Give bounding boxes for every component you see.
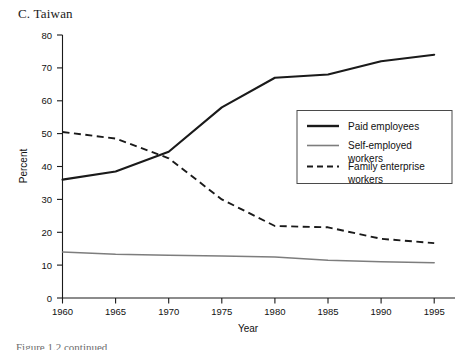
x-tick-label-1970: 1970 bbox=[158, 306, 179, 317]
y-tick-label-50: 50 bbox=[41, 128, 52, 139]
y-tick-label-10: 10 bbox=[41, 260, 52, 271]
y-tick-label-20: 20 bbox=[41, 227, 52, 238]
legend-label-family-enterprise-workers-line2: workers bbox=[347, 174, 383, 185]
x-tick-label-1980: 1980 bbox=[264, 306, 285, 317]
x-axis-title: Year bbox=[238, 323, 259, 334]
x-tick-label-1985: 1985 bbox=[317, 306, 338, 317]
legend-label-self-employed-workers-line1: Self-employed bbox=[348, 140, 412, 151]
legend-label-family-enterprise-workers-line1: Family enterprise bbox=[348, 161, 425, 172]
x-tick-label-1960: 1960 bbox=[52, 306, 73, 317]
x-tick-label-1990: 1990 bbox=[371, 306, 392, 317]
y-axis-title: Percent bbox=[18, 149, 29, 184]
x-tick-label-1995: 1995 bbox=[424, 306, 445, 317]
figure-panel: C. Taiwan 0 10 20 30 40 50 60 70 80 Perc… bbox=[0, 0, 473, 350]
y-tick-label-80: 80 bbox=[41, 30, 52, 41]
y-tick-label-40: 40 bbox=[41, 161, 52, 172]
y-axis-ticks bbox=[57, 35, 63, 298]
legend-label-paid-employees: Paid employees bbox=[348, 121, 419, 132]
x-tick-label-1965: 1965 bbox=[105, 306, 126, 317]
line-chart: 0 10 20 30 40 50 60 70 80 Percent 1960 1… bbox=[0, 0, 473, 350]
x-axis-ticks bbox=[63, 298, 435, 304]
y-tick-label-30: 30 bbox=[41, 194, 52, 205]
chart-legend: Paid employees Self-employed workers Fam… bbox=[297, 111, 452, 185]
series-line-self-employed-workers bbox=[63, 252, 435, 263]
y-tick-label-0: 0 bbox=[47, 293, 52, 304]
y-tick-label-60: 60 bbox=[41, 95, 52, 106]
y-tick-label-70: 70 bbox=[41, 62, 52, 73]
figure-caption: Figure 1.2 continued bbox=[16, 341, 226, 350]
x-tick-label-1975: 1975 bbox=[211, 306, 232, 317]
